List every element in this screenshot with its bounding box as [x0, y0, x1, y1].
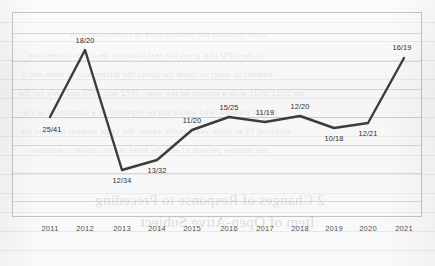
- x-axis-tick-2013: 2013: [113, 224, 131, 233]
- data-point-label: 25/41: [43, 125, 62, 134]
- data-point-label: 15/25: [220, 103, 239, 112]
- data-point-label: 18/20: [76, 36, 95, 45]
- data-point-label: 11/19: [256, 108, 274, 117]
- data-point-label: 16/19: [393, 43, 412, 52]
- x-axis-tick-2017: 2017: [256, 224, 274, 233]
- data-point-label: 13/32: [148, 166, 167, 175]
- data-point-label: 12/20: [291, 102, 310, 111]
- data-point-label: 11/20: [183, 116, 201, 125]
- data-point-label: 12/34: [113, 176, 132, 185]
- x-axis-tick-2018: 2018: [291, 224, 309, 233]
- x-axis-tick-2016: 2016: [220, 224, 238, 233]
- line-series-svg: [12, 12, 422, 217]
- x-axis-tick-2014: 2014: [148, 224, 166, 233]
- x-axis-tick-2011: 2011: [41, 224, 58, 233]
- line-chart: 25/4118/2012/3413/3211/2015/2511/1912/20…: [12, 12, 422, 217]
- x-axis-tick-2012: 2012: [76, 224, 94, 233]
- ruled-line: [0, 250, 435, 251]
- x-axis-tick-2020: 2020: [359, 224, 377, 233]
- x-axis-tick-2021: 2021: [395, 224, 413, 233]
- x-axis-tick-2015: 2015: [183, 224, 201, 233]
- data-point-label: 10/18: [325, 134, 344, 143]
- x-axis-labels: 2011201220132014201520162017201820192020…: [12, 224, 422, 242]
- x-axis-tick-2019: 2019: [325, 224, 343, 233]
- data-point-label: 12/21: [359, 129, 378, 138]
